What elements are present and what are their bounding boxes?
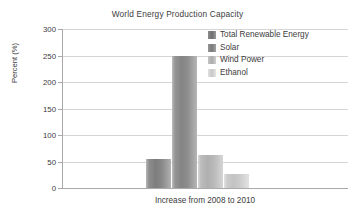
x-axis-line	[62, 188, 348, 189]
legend-swatch-icon-ethanol	[208, 69, 216, 77]
bar-ethanol[interactable]	[224, 174, 249, 188]
legend-label-wind-power: Wind Power	[220, 56, 264, 64]
bar-solar[interactable]	[172, 56, 197, 189]
legend-label-solar: Solar	[220, 44, 239, 52]
y-axis-title: Percent (%)	[10, 28, 19, 98]
y-axis-title-text: Percent (%)	[10, 28, 19, 98]
legend-item-total-renewable-energy[interactable]: Total Renewable Energy	[208, 29, 354, 42]
y-tick-label-0: 0	[8, 184, 56, 193]
legend-swatch-icon-solar	[208, 44, 216, 52]
y-tick-label-150: 150	[8, 105, 56, 114]
y-tick-label-50: 50	[8, 158, 56, 167]
y-tick-label-300: 300	[8, 25, 56, 34]
chart-title: World Energy Production Capacity	[0, 9, 355, 19]
legend-item-wind-power[interactable]: Wind Power	[208, 54, 354, 67]
y-tick-label-250: 250	[8, 52, 56, 61]
chart-container: World Energy Production Capacity Percent…	[0, 0, 355, 215]
legend-label-total-renewable-energy: Total Renewable Energy	[220, 31, 309, 39]
y-tick-label-100: 100	[8, 131, 56, 140]
tick-0	[58, 188, 62, 189]
y-tick-label-200: 200	[8, 78, 56, 87]
legend-item-solar[interactable]: Solar	[208, 42, 354, 55]
legend-swatch-icon-wind-power	[208, 56, 216, 64]
legend-swatch-icon-total-renewable-energy	[208, 31, 216, 39]
bar-wind-power[interactable]	[198, 155, 223, 188]
chart-legend: Total Renewable Energy Solar Wind Power …	[208, 29, 354, 79]
bar-total-renewable-energy[interactable]	[146, 159, 171, 188]
x-axis-label: Increase from 2008 to 2010	[62, 196, 348, 205]
legend-label-ethanol: Ethanol	[220, 69, 248, 77]
legend-item-ethanol[interactable]: Ethanol	[208, 67, 354, 80]
